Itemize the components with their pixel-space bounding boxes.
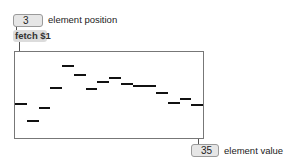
multislider-slider[interactable] [86,88,98,90]
multislider-slider[interactable] [27,120,39,122]
multislider-slider[interactable] [15,103,27,105]
multislider[interactable] [14,51,204,139]
multislider-slider[interactable] [97,81,109,83]
multislider-slider[interactable] [39,107,51,109]
multislider-slider[interactable] [156,92,168,94]
multislider-slider[interactable] [168,102,180,104]
multislider-slider[interactable] [133,85,145,87]
multislider-slider[interactable] [109,77,121,79]
position-comment: element position [48,14,117,26]
value-comment: element value [224,145,283,157]
value-number-box[interactable]: 35 [191,144,219,157]
patch-cord-fetch-to-multislider [19,42,20,51]
position-value: 3 [23,15,29,26]
multislider-slider[interactable] [180,98,192,100]
multislider-slider[interactable] [144,85,156,87]
element-value: 35 [201,145,212,156]
multislider-slider[interactable] [62,65,74,67]
fetch-message-label: fetch $1 [15,30,51,41]
multislider-slider[interactable] [50,87,62,89]
fetch-message-box[interactable]: fetch $1 [13,30,47,42]
position-number-box[interactable]: 3 [13,14,43,27]
multislider-slider[interactable] [121,83,133,85]
multislider-slider[interactable] [191,104,203,106]
multislider-slider[interactable] [74,74,86,76]
